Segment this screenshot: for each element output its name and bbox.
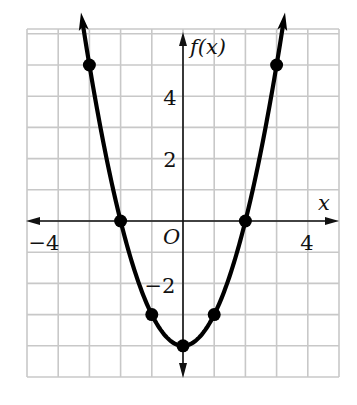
x-axis-right-arrow-icon xyxy=(325,217,339,225)
data-point xyxy=(83,59,96,72)
x-tick-label: 4 xyxy=(300,231,313,255)
x-tick-label: −4 xyxy=(29,231,60,255)
x-axis-left-arrow-icon xyxy=(26,217,40,225)
data-point xyxy=(114,215,127,228)
y-axis-label: f(x) xyxy=(188,35,226,59)
origin-label: O xyxy=(163,225,180,249)
data-point xyxy=(145,308,158,321)
y-tick-label: −2 xyxy=(145,274,176,298)
parabola-graph: f(x) x O −4 4 4 2 −2 xyxy=(0,0,357,405)
data-point xyxy=(270,59,283,72)
data-point xyxy=(208,308,221,321)
axis-labels: f(x) x O −4 4 4 2 −2 xyxy=(29,35,330,298)
y-axis-down-arrow-icon xyxy=(179,363,187,378)
data-point xyxy=(239,215,252,228)
y-tick-label: 4 xyxy=(163,86,176,110)
y-tick-label: 2 xyxy=(163,148,176,172)
axes xyxy=(26,32,339,378)
data-point xyxy=(177,339,190,352)
x-axis-label: x xyxy=(318,191,330,215)
